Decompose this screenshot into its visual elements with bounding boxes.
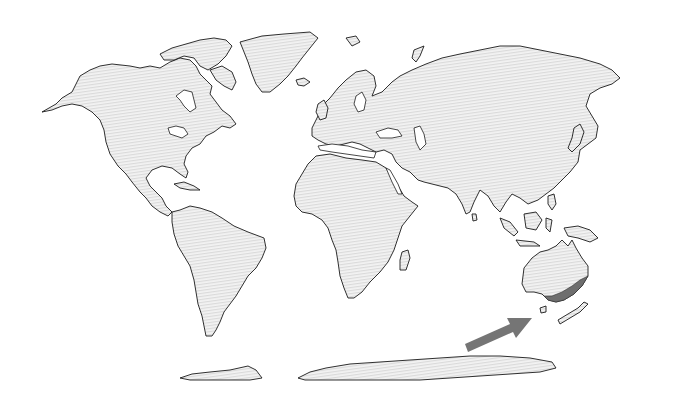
tasmania bbox=[540, 306, 546, 313]
cuba bbox=[174, 182, 200, 190]
world-map: Southeastern Australia bbox=[0, 0, 677, 400]
antarctica bbox=[180, 366, 262, 380]
sulawesi bbox=[546, 218, 552, 232]
sumatra bbox=[500, 218, 518, 236]
novaya-zemlya bbox=[412, 46, 424, 62]
baffin-island bbox=[210, 66, 236, 90]
north-america bbox=[42, 58, 236, 216]
map-canvas bbox=[0, 0, 677, 400]
pointer-arrow-icon bbox=[465, 318, 532, 352]
antarctica-east bbox=[298, 356, 556, 380]
madagascar bbox=[400, 250, 410, 270]
sri-lanka bbox=[472, 214, 477, 221]
south-america bbox=[172, 206, 266, 336]
australia bbox=[522, 240, 588, 302]
borneo bbox=[524, 212, 542, 230]
new-guinea bbox=[564, 226, 598, 242]
africa bbox=[294, 154, 418, 298]
philippines bbox=[548, 194, 556, 210]
new-zealand bbox=[558, 302, 588, 324]
svalbard bbox=[346, 36, 360, 46]
iceland bbox=[296, 78, 310, 86]
java bbox=[516, 240, 540, 246]
